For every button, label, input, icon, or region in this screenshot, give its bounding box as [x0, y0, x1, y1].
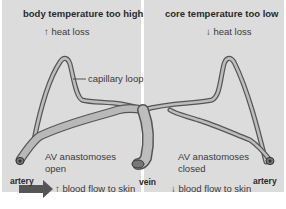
right-heat-loss: ↓ heat loss — [206, 27, 251, 37]
left-artery-label: artery — [10, 177, 34, 186]
right-av-state-line1: AV anastomoses — [178, 152, 249, 162]
left-blood-flow: ↑ blood flow to skin — [55, 184, 135, 194]
left-heat-loss: ↑ heat loss — [44, 27, 89, 37]
vein-label: vein — [139, 178, 156, 187]
right-artery-label: artery — [253, 177, 277, 186]
right-capillary-loop — [143, 58, 266, 162]
right-panel-title: core temperature too low — [165, 9, 279, 19]
central-vein — [138, 110, 148, 164]
left-av-state-line2: open — [45, 164, 66, 174]
right-blood-flow: ↓ blood flow to skin — [171, 184, 251, 194]
capillary-loop-label: capillary loop — [88, 74, 143, 84]
left-av-state-line1: AV anastomoses — [45, 152, 116, 162]
vein-opening — [132, 160, 144, 168]
left-panel-title: body temperature too high — [23, 9, 143, 19]
right-av-state-line2: closed — [178, 164, 205, 174]
diagram: body temperature too high ↑ heat loss co… — [0, 0, 286, 209]
